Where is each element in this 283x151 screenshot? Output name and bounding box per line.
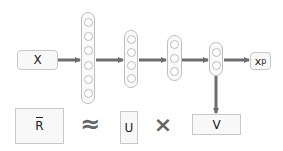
output-superscript: p — [261, 57, 266, 66]
input-x-box: X — [17, 50, 58, 70]
neuron — [170, 40, 179, 49]
neuron — [170, 67, 179, 76]
v-label: V — [212, 118, 220, 132]
neuron — [84, 18, 93, 27]
r-matrix-box: R — [15, 108, 64, 144]
neuron — [84, 89, 93, 98]
output-xp-box: xp — [250, 52, 271, 70]
neuron — [84, 61, 93, 70]
neuron — [84, 75, 93, 84]
v-matrix-box: V — [192, 114, 241, 135]
neuron — [84, 46, 93, 55]
r-bar-label: R — [35, 119, 43, 133]
hidden-layer-3 — [167, 35, 182, 81]
hidden-layer-1 — [81, 12, 95, 104]
u-label: U — [125, 121, 134, 135]
times-symbol: × — [152, 113, 174, 135]
neuron — [127, 74, 136, 83]
u-matrix-box: U — [120, 111, 138, 144]
neuron — [84, 32, 93, 41]
input-x-label: X — [33, 53, 41, 67]
neuron — [127, 61, 136, 70]
approx-symbol: ≈ — [78, 112, 102, 136]
neuron — [212, 61, 221, 70]
neuron — [212, 48, 221, 57]
neuron — [127, 35, 136, 44]
neuron — [127, 48, 136, 57]
hidden-layer-4 — [209, 42, 223, 76]
neuron — [170, 54, 179, 63]
hidden-layer-2 — [124, 30, 138, 88]
